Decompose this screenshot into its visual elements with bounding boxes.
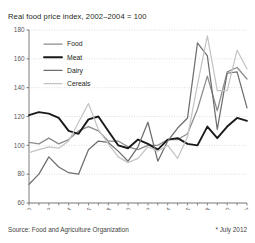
y-tick-label: 160 — [14, 55, 25, 62]
y-tick-label: 120 — [14, 113, 25, 120]
x-tick-label: 1992 — [38, 205, 53, 210]
source-note: Source: Food and Agriculture Organizatio… — [8, 226, 129, 233]
line-chart-svg: 6080100120140160180 19901992199419961998… — [0, 24, 255, 210]
x-tick-label: 1994 — [58, 205, 73, 210]
legend-label-cereals: Cereals — [67, 80, 91, 87]
x-tick-label: 2010 — [216, 205, 231, 210]
legend-label-dairy: Dairy — [67, 67, 83, 75]
x-tick-label: 2006 — [177, 205, 192, 210]
gridlines — [29, 30, 247, 203]
series-line-dairy — [29, 43, 247, 184]
footnote-note: * July 2012 — [215, 226, 247, 233]
series-line-meat — [29, 112, 247, 149]
x-tick-label: 1996 — [78, 205, 93, 210]
plot-area: 6080100120140160180 19901992199419961998… — [0, 24, 255, 210]
x-tick-label: 2012* — [234, 205, 251, 210]
x-tick-label: 2008 — [196, 205, 211, 210]
x-tick-label: 2002 — [137, 205, 152, 210]
y-axis-ticks: 6080100120140160180 — [14, 26, 29, 206]
chart-footer: Source: Food and Agriculture Organizatio… — [0, 226, 255, 238]
legend-label-meat: Meat — [67, 54, 82, 61]
legend-label-food: Food — [67, 40, 83, 47]
y-tick-label: 100 — [14, 142, 25, 149]
chart-figure: Real food price index, 2002–2004 = 100 6… — [0, 0, 255, 243]
y-tick-label: 80 — [17, 170, 25, 177]
x-tick-label: 2000 — [117, 205, 132, 210]
y-tick-label: 60 — [17, 199, 25, 206]
chart-title: Real food price index, 2002–2004 = 100 — [8, 12, 147, 21]
chart-legend: FoodMeatDairyCereals — [44, 40, 91, 87]
y-tick-label: 140 — [14, 84, 25, 91]
x-axis-ticks: 1990199219941996199820002002200420062008… — [18, 203, 251, 210]
x-tick-label: 2004 — [157, 205, 172, 210]
y-tick-label: 180 — [14, 26, 25, 33]
x-tick-label: 1998 — [97, 205, 112, 210]
